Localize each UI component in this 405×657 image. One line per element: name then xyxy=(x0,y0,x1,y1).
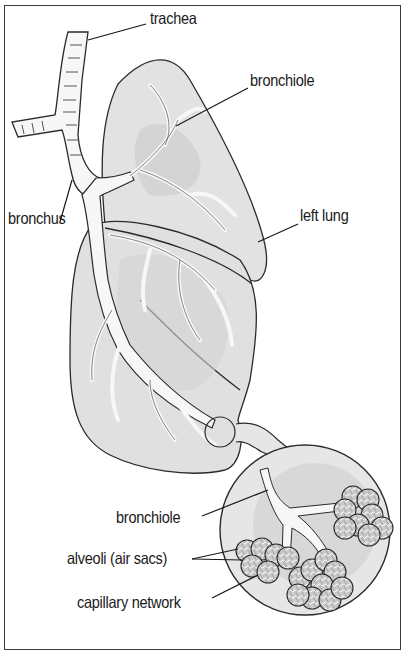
label-bronchus: bronchus xyxy=(8,210,66,227)
label-left-lung: left lung xyxy=(300,207,348,224)
lung-diagram xyxy=(0,0,405,657)
label-bronchiole-top: bronchiole xyxy=(250,72,314,89)
label-bronchiole-inset: bronchiole xyxy=(116,509,180,526)
label-trachea: trachea xyxy=(150,10,197,27)
trachea xyxy=(12,32,100,196)
label-alveoli: alveoli (air sacs) xyxy=(67,550,167,567)
label-capillary-network: capillary network xyxy=(77,594,181,611)
